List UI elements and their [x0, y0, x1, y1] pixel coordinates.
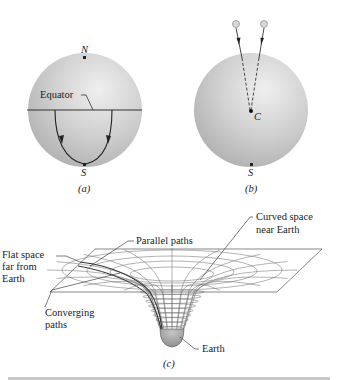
south-label-a: S	[81, 167, 87, 178]
center-point	[249, 109, 253, 113]
panel-c: Parallel paths Curved space near Earth F…	[2, 211, 322, 370]
figure: Equator N S (a) C S (b)	[0, 0, 337, 380]
parallel-paths-label: Parallel paths	[136, 235, 193, 246]
panel-a: Equator N S (a)	[27, 44, 142, 195]
space-sheet	[50, 249, 322, 292]
flat-space-label-3: Earth	[2, 273, 25, 284]
equator-label: Equator	[40, 89, 74, 100]
earth	[160, 329, 184, 347]
particle-right	[261, 21, 268, 28]
arrow-b-left	[237, 38, 241, 46]
flat-space-label-2: far from	[2, 261, 37, 272]
panel-c-label: (c)	[163, 358, 175, 370]
panel-b: C S (b)	[194, 21, 308, 196]
curved-space-label-2: near Earth	[256, 224, 300, 235]
north-pole-mark	[83, 56, 86, 59]
flat-leader	[56, 256, 80, 262]
curved-space-label-1: Curved space	[256, 211, 313, 222]
south-label-b: S	[248, 167, 254, 178]
south-pole-mark	[83, 163, 86, 166]
converging-label-2: paths	[45, 319, 67, 330]
panel-a-label: (a)	[78, 183, 91, 195]
center-label: C	[254, 111, 262, 122]
arrow-b-right	[261, 38, 265, 46]
flat-space-label-1: Flat space	[2, 249, 45, 260]
earth-label: Earth	[202, 343, 225, 354]
converging-label-1: Converging	[45, 307, 95, 318]
particle-left	[233, 21, 240, 28]
south-pole-mark-b	[250, 163, 253, 166]
north-label: N	[80, 44, 89, 55]
panel-b-label: (b)	[245, 183, 258, 195]
